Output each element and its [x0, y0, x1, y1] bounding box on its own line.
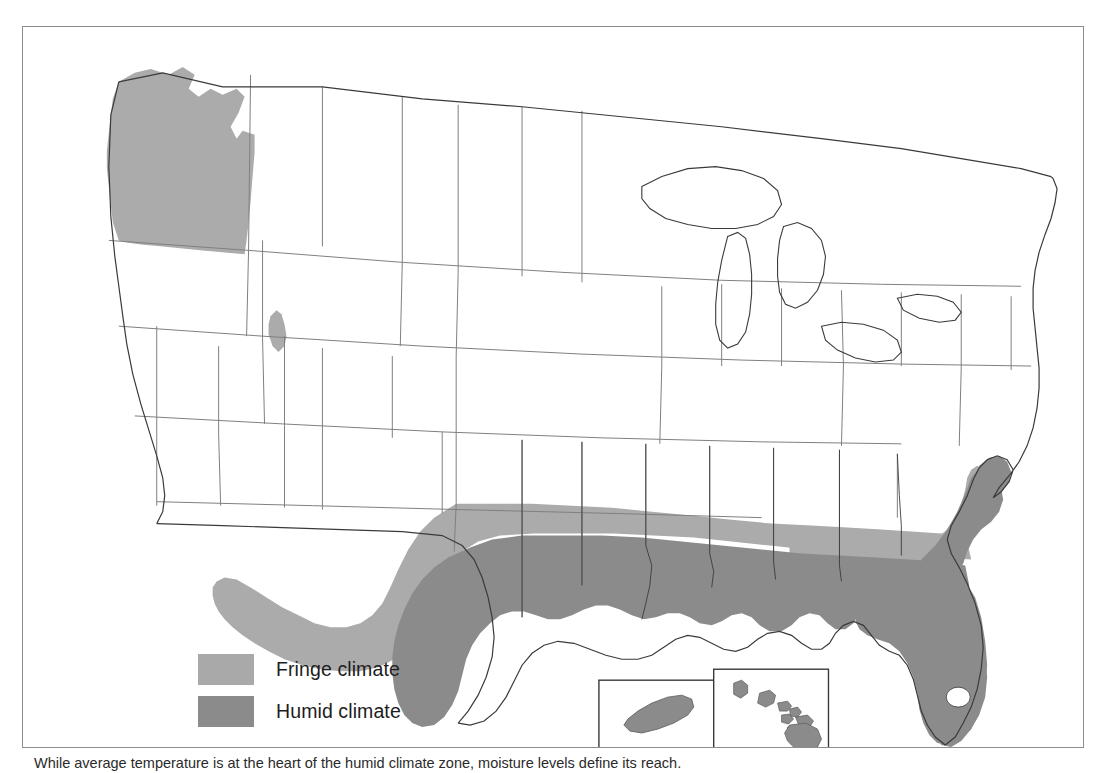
- lake-okeechobee: [946, 687, 970, 707]
- map-frame: [22, 26, 1084, 748]
- figure-caption: While average temperature is at the hear…: [34, 757, 1074, 773]
- great-lakes: [642, 167, 961, 362]
- humid-climate-swatch: [198, 696, 254, 727]
- legend-row-fringe: Fringe climate: [198, 648, 498, 690]
- legend-row-humid: Humid climate: [198, 690, 498, 732]
- fringe-climate-label: Fringe climate: [276, 658, 400, 681]
- hawaii-inset: [714, 669, 829, 747]
- fringe-climate-swatch: [198, 654, 254, 685]
- us-climate-map: [23, 27, 1083, 747]
- figure-caption-text: While average temperature is at the hear…: [34, 757, 1074, 771]
- map-legend: Fringe climate Humid climate: [198, 648, 498, 732]
- humid-climate-label: Humid climate: [276, 700, 401, 723]
- climate-zone-map-figure: Fringe climate Humid climate While avera…: [0, 0, 1105, 773]
